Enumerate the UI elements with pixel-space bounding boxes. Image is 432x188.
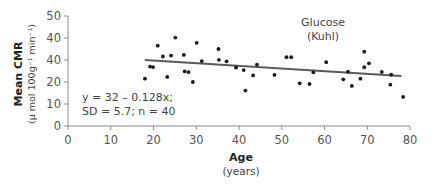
scatter-chart: Mean CMR (µ mol 100g⁻¹ min⁻¹) 0102040405…	[0, 0, 432, 188]
y-axis-title: Mean CMR	[12, 41, 25, 107]
data-point	[217, 58, 221, 62]
data-point	[255, 63, 259, 67]
data-point	[165, 75, 169, 79]
data-point	[251, 74, 255, 78]
regression-equation: y = 32 – 0.128x;	[82, 91, 173, 104]
data-point	[380, 70, 384, 74]
data-point	[311, 70, 315, 74]
x-tick-label: 70	[360, 133, 375, 147]
x-tick-label: 60	[317, 133, 332, 147]
data-point	[195, 41, 199, 45]
x-axis-title: Age	[229, 151, 253, 164]
data-point	[225, 59, 229, 63]
x-tick-label: 40	[232, 133, 247, 147]
data-point	[151, 65, 155, 69]
data-point	[401, 95, 405, 99]
y-axis-ticks: 01020404050	[46, 9, 68, 133]
data-point	[285, 55, 289, 59]
data-point	[173, 36, 177, 40]
data-point	[289, 55, 293, 59]
data-point	[156, 44, 160, 48]
data-point	[367, 61, 371, 65]
series-label-line2: (Kuhl)	[307, 30, 339, 43]
data-point	[234, 66, 238, 70]
y-tick-label: 10	[46, 97, 61, 111]
data-point	[242, 68, 246, 72]
regression-stats: SD = 5.7; n = 40	[82, 105, 176, 118]
x-tick-label: 0	[64, 133, 71, 147]
data-point	[389, 73, 393, 77]
data-point	[191, 80, 195, 84]
data-point	[169, 54, 173, 58]
data-point	[350, 84, 354, 88]
data-point	[273, 73, 277, 77]
data-point	[362, 50, 366, 54]
data-point	[187, 70, 191, 74]
x-axis-units: (years)	[222, 165, 259, 177]
x-tick-label: 80	[403, 133, 418, 147]
y-tick-label: 0	[54, 119, 61, 133]
x-tick-label: 20	[146, 133, 161, 147]
y-tick-label: 40	[46, 53, 61, 67]
y-axis-units: (µ mol 100g⁻¹ min⁻¹)	[26, 24, 37, 124]
data-point	[359, 77, 363, 81]
data-point	[182, 53, 186, 57]
series-label-line1: Glucose	[301, 16, 345, 29]
data-point	[308, 82, 312, 86]
data-point	[324, 60, 328, 64]
y-tick-label: 40	[46, 31, 61, 45]
data-point	[217, 47, 221, 51]
data-point	[388, 83, 392, 87]
x-tick-label: 10	[103, 133, 118, 147]
data-point	[346, 70, 350, 74]
x-tick-label: 50	[274, 133, 289, 147]
data-point	[200, 59, 204, 63]
data-point	[298, 81, 302, 85]
y-tick-label: 50	[46, 9, 61, 23]
y-tick-label: 20	[46, 75, 61, 89]
data-point	[143, 77, 147, 81]
data-point	[161, 55, 165, 59]
x-axis-ticks: 01020304050607080	[64, 126, 417, 147]
x-tick-label: 30	[189, 133, 204, 147]
data-point	[341, 77, 345, 81]
y-axis-label-group: Mean CMR (µ mol 100g⁻¹ min⁻¹)	[12, 24, 37, 124]
data-point	[244, 89, 248, 93]
data-point	[362, 65, 366, 69]
data-point	[183, 70, 187, 74]
